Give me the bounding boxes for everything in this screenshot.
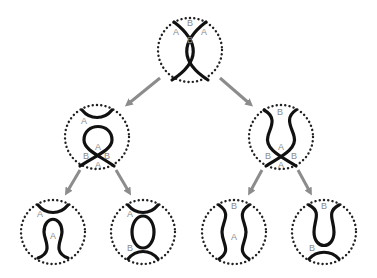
region-label: B — [187, 35, 193, 45]
region-label: B — [231, 201, 237, 211]
edges — [67, 78, 310, 192]
region-label: A — [127, 209, 133, 219]
region-label: A — [201, 27, 207, 37]
node-root: A B A B — [158, 18, 222, 82]
region-label: A — [173, 27, 179, 37]
region-label: B — [127, 243, 133, 253]
region-label: A — [231, 232, 237, 242]
region-label: B — [187, 18, 193, 28]
region-label: B — [277, 107, 283, 117]
arrow-mid-right-to-leaf-ba — [250, 170, 262, 192]
region-label: A — [81, 116, 87, 126]
closed-loop — [132, 216, 154, 248]
region-label: B — [83, 151, 89, 161]
arrow-mid-right-to-leaf-bb — [298, 170, 310, 192]
region-label: B — [104, 151, 110, 161]
node-mid-right: B A B B A — [249, 105, 313, 170]
region-label: A — [95, 160, 101, 170]
node-leaf-bb: B B — [292, 200, 356, 264]
region-label: A — [95, 142, 101, 152]
arrow-mid-left-to-leaf-ab — [116, 170, 129, 192]
node-leaf-aa: A A — [21, 200, 85, 264]
node-leaf-ba: B A — [202, 200, 266, 264]
boundary-circle — [111, 200, 175, 264]
region-label: B — [321, 201, 327, 211]
arrow-mid-left-to-leaf-aa — [67, 170, 80, 192]
region-label: A — [37, 209, 43, 219]
region-label: A — [50, 231, 56, 241]
region-label: A — [278, 160, 284, 170]
strand — [219, 205, 226, 259]
resolution-tree-diagram: A B A B A A B B A B A B B A A A — [0, 0, 377, 278]
region-label: B — [291, 151, 297, 161]
region-label: B — [309, 243, 315, 253]
arrow-root-to-mid-right — [220, 78, 250, 104]
arrow-root-to-mid-left — [128, 78, 160, 104]
region-label: A — [278, 142, 284, 152]
region-label: B — [265, 151, 271, 161]
strand — [242, 205, 249, 259]
node-leaf-ab: A B — [111, 200, 175, 264]
node-mid-left: A A B B A — [65, 105, 129, 170]
